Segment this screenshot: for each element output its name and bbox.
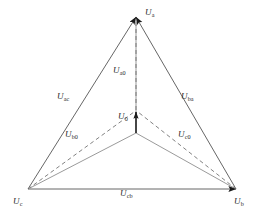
label-vertex-c: Uc [13,197,22,206]
line-voltage-ac-vector [28,17,136,189]
line-voltage-ba-vector [136,17,236,189]
label-line-ba: Uba [181,92,193,101]
label-phase-b0: Ub0 [65,130,78,139]
label-phase-c0: Uc0 [178,130,190,139]
label-line-cb: Ucb [120,189,132,198]
phasor-diagram-figure: Ua Ub Uc U0 Ua0 Ub0 Uc0 Uac Uba Ucb [0,0,264,219]
label-phase-a0: Ua0 [113,66,125,75]
phase-voltage-b0-dashed [28,112,134,189]
label-line-ac: Uac [57,92,69,101]
phasor-diagram-canvas [0,0,264,219]
phase-voltage-c0-dashed [138,112,236,189]
label-neutral-u0: U0 [118,112,128,121]
label-vertex-a: Ua [145,8,154,17]
label-vertex-b: Ub [234,197,244,206]
